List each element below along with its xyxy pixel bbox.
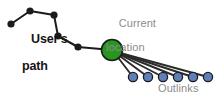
- outlinks-label: Outlinks: [158, 83, 199, 95]
- user-path-label: User's path: [18, 19, 68, 99]
- user-path-label-line2: path: [22, 60, 68, 74]
- outlink-node-6[interactable]: [203, 72, 212, 81]
- path-node-5[interactable]: [74, 43, 81, 50]
- outlink-node-4[interactable]: [173, 72, 182, 81]
- path-node-3[interactable]: [50, 11, 57, 18]
- outlink-node-5[interactable]: [188, 72, 197, 81]
- diagram-root: User's path Current location Outlinks: [0, 0, 221, 99]
- outlink-node-3[interactable]: [158, 72, 167, 81]
- path-node-1[interactable]: [7, 20, 14, 27]
- current-location-label: Current location: [106, 6, 156, 77]
- path-node-2[interactable]: [26, 7, 33, 14]
- current-location-label-line2: location: [106, 42, 156, 54]
- user-path-label-line1: User's: [31, 32, 68, 46]
- current-location-label-line1: Current: [119, 17, 156, 29]
